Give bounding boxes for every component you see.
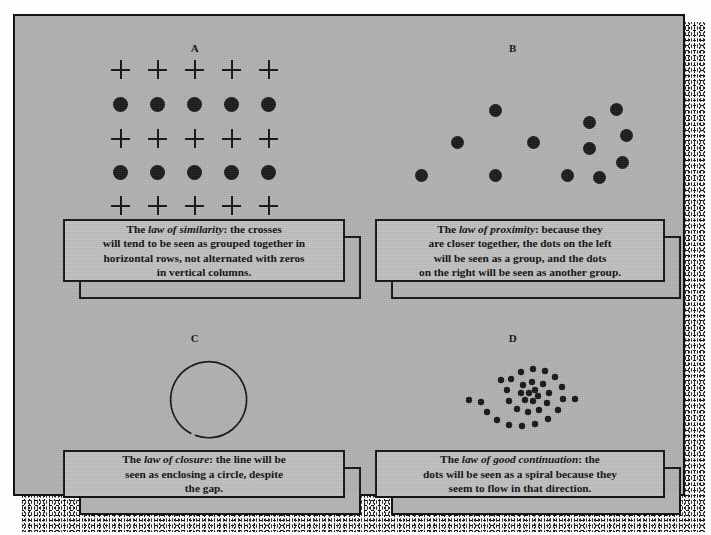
caption-b-text: The law of proximity: because they are c…	[409, 222, 631, 280]
dot-glyph	[415, 169, 428, 182]
dot-glyph	[224, 97, 239, 112]
caption-b-law: law of proximity	[459, 223, 535, 235]
dot-glyph	[527, 136, 540, 149]
caption-c-text: The law of closure: the line will be see…	[112, 452, 296, 495]
caption-a-box: The law of similarity: the crosses will …	[63, 219, 345, 282]
dot-glyph	[113, 165, 128, 180]
dot-glyph	[187, 165, 202, 180]
caption-c: The law of closure: the line will be see…	[63, 450, 363, 520]
panel-b-stimulus	[407, 60, 627, 212]
cross-glyph	[222, 60, 241, 79]
panel-d-stimulus	[455, 346, 615, 441]
caption-a-law: law of similarity	[148, 223, 223, 235]
figure-page: A	[0, 0, 711, 535]
dot-glyph	[150, 165, 165, 180]
panel-a-stimulus	[105, 60, 275, 212]
cross-glyph	[259, 60, 278, 79]
cross-glyph	[185, 129, 204, 148]
cross-glyph	[259, 196, 278, 215]
panel-label-c: C	[185, 332, 205, 344]
dot-glyph	[583, 142, 596, 155]
cross-glyph	[148, 129, 167, 148]
illustration-plate: A	[13, 14, 685, 496]
cross-glyph	[185, 60, 204, 79]
dot-glyph	[620, 129, 633, 142]
dot-glyph	[610, 103, 623, 116]
panel-label-a: A	[185, 42, 205, 54]
caption-a: The law of similarity: the crosses will …	[63, 219, 363, 299]
dot-glyph	[224, 165, 239, 180]
dot-glyph	[593, 171, 606, 184]
caption-c-law: law of closure	[144, 453, 209, 465]
cross-glyph	[111, 129, 130, 148]
caption-b: The law of proximity: because they are c…	[375, 219, 685, 299]
panel-c-stimulus	[143, 346, 253, 441]
dot-glyph	[261, 165, 276, 180]
spiral-of-dots-icon	[455, 346, 615, 441]
dot-glyph	[113, 97, 128, 112]
cross-glyph	[111, 196, 130, 215]
cross-glyph	[222, 196, 241, 215]
caption-d-box: The law of good continuation: the dots w…	[375, 450, 665, 498]
dot-glyph	[187, 97, 202, 112]
dot-glyph	[261, 97, 276, 112]
caption-c-box: The law of closure: the line will be see…	[63, 450, 345, 498]
circle-with-gap-icon	[143, 346, 253, 441]
cross-glyph	[259, 129, 278, 148]
caption-d-text: The law of good continuation: the dots w…	[413, 452, 627, 495]
dot-glyph	[489, 104, 502, 117]
panel-label-b: B	[503, 42, 523, 54]
cross-glyph	[148, 60, 167, 79]
cross-glyph	[222, 129, 241, 148]
spiral-dots-group	[466, 366, 578, 429]
dot-glyph	[616, 156, 629, 169]
dot-glyph	[583, 116, 596, 129]
caption-a-text: The law of similarity: the crosses will …	[93, 222, 315, 280]
dot-glyph	[489, 169, 502, 182]
dot-glyph	[561, 169, 574, 182]
caption-d: The law of good continuation: the dots w…	[375, 450, 685, 520]
cross-glyph	[185, 196, 204, 215]
cross-glyph	[111, 60, 130, 79]
dot-glyph	[451, 136, 464, 149]
caption-b-box: The law of proximity: because they are c…	[375, 219, 665, 282]
caption-d-law: law of good continuation	[462, 453, 578, 465]
dot-glyph	[150, 97, 165, 112]
cross-glyph	[148, 196, 167, 215]
panel-label-d: D	[503, 332, 523, 344]
